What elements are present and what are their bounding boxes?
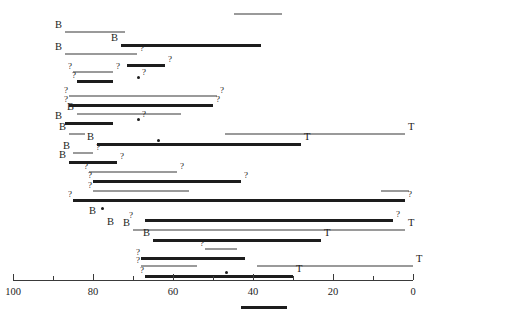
axis-tick-label-20: 20 bbox=[313, 286, 353, 297]
mark-t-end-plagioclase-kiglapait-labrador: T bbox=[324, 228, 330, 239]
bar-olivine2-skaergaard bbox=[257, 265, 413, 267]
bar-olivine-bushveld bbox=[69, 133, 85, 135]
mark-b-start-olivine-great-dike: B bbox=[55, 20, 62, 31]
bar-olivine-duluth bbox=[205, 248, 237, 250]
mark-?-end-olivine-kapalagulu-tanzania: ? bbox=[96, 143, 100, 152]
point-skaergaard bbox=[225, 271, 228, 274]
mark-?-end-plagioclase-cuillin-skye: ? bbox=[216, 95, 220, 104]
mark-b-start-olivine-bushveld: B bbox=[59, 122, 66, 133]
axis-tick-label-80: 80 bbox=[73, 286, 113, 297]
mark-?-end-plagioclase-kaerven: ? bbox=[396, 210, 400, 219]
axis-minor-tick-70 bbox=[133, 276, 134, 280]
mark-?-start-plagioclase-skaergaard: ? bbox=[140, 266, 144, 275]
axis-minor-tick-10 bbox=[373, 276, 374, 280]
axis-tick-label-0: 0 bbox=[393, 286, 433, 297]
point-stillwater bbox=[137, 118, 140, 121]
mark-b-start-plagioclase-kapalagulu-tanzania: B bbox=[59, 150, 66, 161]
mark-b-start-plagioclase-great-dike: B bbox=[111, 33, 118, 44]
bar-plagioclase-duluth bbox=[141, 257, 245, 260]
mark-b-start-plagioclase-stillwater: B bbox=[55, 111, 62, 122]
mark-b-start-olivine-kiglapait-labrador: B bbox=[123, 218, 130, 229]
axis-tick-60 bbox=[173, 274, 174, 280]
axis-line bbox=[13, 280, 413, 281]
mark-?-end-plagioclase-insch-scotland: ? bbox=[408, 190, 412, 199]
point-mark-stillwater: ? bbox=[142, 110, 146, 119]
mark-?-end-plagioclase-bay-of-islands: ? bbox=[168, 55, 172, 64]
mark-?-start-olivine-duluth: ? bbox=[200, 239, 204, 248]
mark-?-start-olivine-insch-scotland: ? bbox=[88, 181, 92, 190]
mark-b-start-plagioclase-kiglapait-labrador: B bbox=[143, 228, 150, 239]
plagioclase-legend-swatch bbox=[241, 306, 287, 309]
bar-plagioclase-rhum bbox=[77, 80, 113, 83]
mark-?-end-plagioclase-kap-edvard-holm: ? bbox=[244, 171, 248, 180]
mark-b-start-olivine-bay-of-islands: B bbox=[55, 42, 62, 53]
mark-?-start-plagioclase-rhum: ? bbox=[72, 71, 76, 80]
extra-dot-kaerven-1 bbox=[101, 207, 104, 210]
bar-olivine-insch-scotland bbox=[93, 190, 189, 192]
axis-tick-80 bbox=[93, 274, 94, 280]
mark-?-end-olivine-kap-edvard-holm: ? bbox=[180, 162, 184, 171]
bar-plagioclase-bushveld bbox=[97, 143, 301, 146]
bar-plagioclase-bay-of-islands bbox=[127, 64, 165, 67]
mark-?-end-plagioclase-kapalagulu-tanzania: ? bbox=[120, 152, 124, 161]
bar-olivine-bay-of-islands bbox=[65, 53, 137, 55]
mark-?-start-plagioclase-insch-scotland: ? bbox=[68, 190, 72, 199]
axis-tick-40 bbox=[253, 274, 254, 280]
bar-plagioclase-stillwater bbox=[65, 122, 113, 125]
bar-olivine-kap-edvard-holm bbox=[89, 171, 177, 173]
extra-mark-kaerven-0: B bbox=[89, 206, 96, 217]
bar-plagioclase-kap-edvard-holm bbox=[93, 180, 241, 183]
bar-plagioclase-skaergaard bbox=[145, 275, 293, 278]
bar-plagioclase-cuillin-skye bbox=[69, 104, 213, 107]
point-bushveld bbox=[157, 139, 160, 142]
layered-intrusion-figure: BBB??????????BB?BTBTB?B?????????B?BBTBT?… bbox=[0, 0, 528, 314]
mark-t-end-plagioclase-bushveld: T bbox=[304, 132, 310, 143]
mark-t-end-olivine2-skaergaard: T bbox=[416, 254, 422, 265]
axis-minor-tick-50 bbox=[213, 276, 214, 280]
bar-olivine-stillwater bbox=[77, 113, 181, 115]
bar-olivine2-bushveld bbox=[225, 133, 405, 135]
point-rhum bbox=[137, 76, 140, 79]
axis-minor-tick-30 bbox=[293, 276, 294, 280]
bar-plagioclase-kapalagulu-tanzania bbox=[69, 161, 117, 164]
mark-?-end-olivine-bay-of-islands: ? bbox=[140, 44, 144, 53]
bar-plagioclase-kiglapait-labrador bbox=[153, 239, 321, 242]
bar-plagioclase-kaerven bbox=[145, 219, 393, 222]
bar-olivine-kiglapait-labrador bbox=[133, 229, 405, 231]
mark-t-end-olivine-kiglapait-labrador: T bbox=[408, 218, 414, 229]
bar-olivine2-insch-scotland bbox=[381, 190, 409, 192]
axis-tick-label-40: 40 bbox=[233, 286, 273, 297]
bar-olivine-cuillin-skye bbox=[69, 95, 217, 97]
mark-t-end-olivine2-bushveld: T bbox=[408, 122, 414, 133]
axis-tick-label-60: 60 bbox=[153, 286, 193, 297]
axis-tick-100 bbox=[13, 274, 14, 280]
point-mark-rhum: ? bbox=[142, 68, 146, 77]
bar-olivine-kapalagulu-tanzania bbox=[73, 152, 93, 154]
axis-minor-tick-90 bbox=[53, 276, 54, 280]
mark-?-start-plagioclase-kap-edvard-holm: ? bbox=[88, 171, 92, 180]
mark-?-end-olivine-cuillin-skye: ? bbox=[220, 86, 224, 95]
axis-tick-20 bbox=[333, 274, 334, 280]
axis-tick-label-100: 100 bbox=[0, 286, 33, 297]
mark-b-start-plagioclase-bushveld: B bbox=[87, 132, 94, 143]
mark-b-start-olivine-stillwater: B bbox=[67, 102, 74, 113]
extra-mark-kaerven-3: B bbox=[107, 217, 114, 228]
bar-olivine-skaergaard bbox=[141, 265, 197, 267]
bar-olivine-rhum bbox=[73, 71, 113, 73]
olivine-legend-swatch bbox=[234, 13, 282, 15]
mark-t-end-plagioclase-skaergaard: T bbox=[296, 264, 302, 275]
bar-plagioclase-insch-scotland bbox=[73, 199, 405, 202]
mark-?-start-olivine-skaergaard: ? bbox=[136, 256, 140, 265]
axis-tick-0 bbox=[413, 274, 414, 280]
mark-?-end-olivine-rhum: ? bbox=[116, 62, 120, 71]
